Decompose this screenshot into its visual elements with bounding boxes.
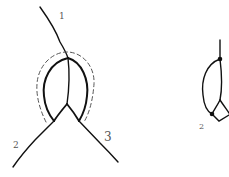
loop-inner-left [54, 104, 67, 121]
right-label-2: 2 [199, 122, 204, 131]
dashed-outline [37, 52, 94, 122]
right-center-line [220, 59, 222, 100]
branch-2-line [13, 121, 54, 167]
diagram-canvas: 1 2 3 2 [0, 0, 229, 177]
label-1: 1 [59, 11, 65, 21]
loop-left-arc [44, 58, 68, 121]
loop-center-line [67, 58, 69, 104]
label-3: 3 [104, 130, 112, 144]
right-inner-right [220, 100, 229, 113]
loop-inner-right [67, 104, 79, 121]
label-2: 2 [13, 140, 19, 150]
right-inner-left [212, 100, 220, 114]
figure-left: 1 2 3 [13, 7, 118, 167]
loop-right-arc [68, 58, 87, 121]
right-diamond-bottom [212, 114, 229, 121]
figure-right: 2 [199, 40, 229, 131]
branch-3-line [79, 121, 118, 162]
